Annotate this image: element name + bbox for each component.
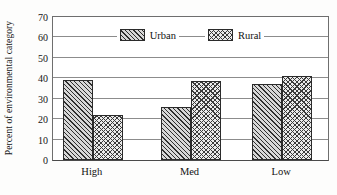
y-axis-label: Percent of environmental category: [0, 0, 18, 175]
bar-urban-med: [161, 107, 191, 160]
y-axis-tick-label: 0: [26, 156, 48, 166]
bar-group-low: [252, 17, 312, 160]
bar-group-high: [63, 17, 123, 160]
y-axis-tick-label: 60: [26, 33, 48, 43]
bar-chart: Percent of environmental category 010203…: [0, 0, 337, 195]
y-axis-tick-label: 30: [26, 95, 48, 105]
x-axis-tick-label-med: Med: [140, 166, 240, 178]
bar-rural-low: [282, 76, 312, 160]
x-axis-tick-label-low: Low: [231, 166, 331, 178]
bar-urban-low: [252, 84, 282, 160]
bar-rural-high: [93, 115, 123, 160]
y-axis-tick-label: 50: [26, 54, 48, 64]
y-axis-tick-label: 40: [26, 74, 48, 84]
bar-group-med: [161, 17, 221, 160]
y-axis-tick-label: 70: [26, 13, 48, 23]
y-axis-label-text: Percent of environmental category: [4, 20, 14, 154]
bar-rural-med: [191, 81, 221, 160]
plot-area: [52, 16, 329, 161]
y-axis-tick-label: 20: [26, 115, 48, 125]
y-axis-tick-label: 10: [26, 136, 48, 146]
x-axis-tick-label-high: High: [42, 166, 142, 178]
x-axis-ticks: HighMedLow: [52, 166, 329, 186]
bar-urban-high: [63, 80, 93, 160]
y-axis-ticks: 010203040506070: [18, 16, 48, 161]
